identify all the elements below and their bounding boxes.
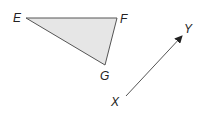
translation-diagram: E F G X Y	[0, 0, 198, 114]
vector-end-label-y: Y	[184, 22, 193, 36]
vertex-label-g: G	[100, 69, 109, 83]
vector-xy-arrow	[126, 36, 182, 96]
vertex-label-f: F	[120, 12, 128, 26]
vector-start-label-x: X	[110, 95, 120, 109]
triangle-efg	[26, 18, 117, 65]
vertex-label-e: E	[13, 11, 22, 25]
